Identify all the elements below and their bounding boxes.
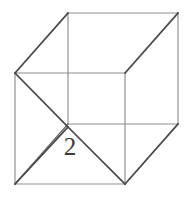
depth-edge-top-left (15, 13, 68, 73)
diagonal-lower-right (68, 127, 125, 184)
cube-diagram-svg: 2 (0, 0, 192, 201)
edge-length-label: 2 (64, 133, 77, 160)
depth-edge-bottom-right (125, 124, 178, 184)
diagonals-group (15, 73, 125, 184)
diagonal-upper-left (15, 73, 68, 127)
figure-root: 2 (0, 0, 192, 201)
back-face-group (68, 13, 178, 124)
depth-edge-top-right (125, 13, 178, 73)
diagonal-lower-left (15, 127, 68, 184)
